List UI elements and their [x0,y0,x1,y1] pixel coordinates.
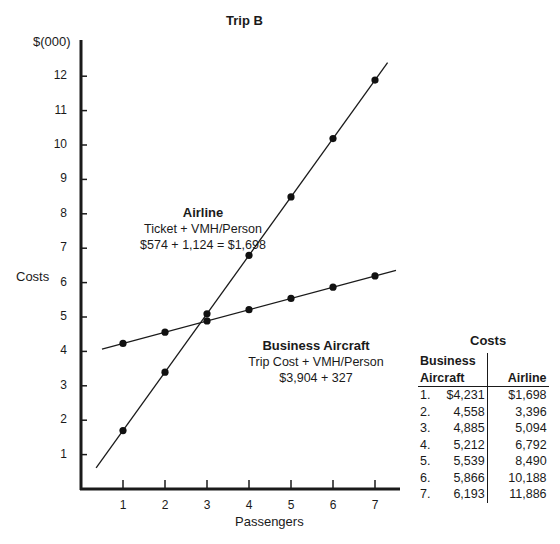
y-tick-label: 1 [43,447,67,461]
row-number: 3. [418,420,432,437]
table-row: 1.$4,231$1,698 [418,387,549,404]
x-tick-label: 1 [113,498,133,512]
axes [80,40,400,490]
row-number: 4. [418,437,432,454]
y-tick-label: 7 [43,240,67,254]
airline-cost: 6,792 [487,437,548,454]
business-cost: 5,539 [432,453,487,470]
y-tick-label: 5 [43,309,67,323]
business-cost: 4,885 [432,420,487,437]
airline-cost: 5,094 [487,420,548,437]
business-cost: 4,558 [432,404,487,421]
row-number: 5. [418,453,432,470]
chart-title: Trip B [226,13,263,28]
header-airline: Airline [487,370,548,387]
airline-point [329,135,336,142]
airline-cost: 11,886 [487,486,548,503]
table-row: 7.6,19311,886 [418,486,549,503]
business-cost: $4,231 [432,387,487,404]
y-tick-label: 4 [43,343,67,357]
business-cost: 6,193 [432,486,487,503]
table-row: 3.4,8855,094 [418,420,549,437]
y-tick-label: 12 [43,68,67,82]
business-cost: 5,212 [432,437,487,454]
airline-annotation-values: $574 + 1,124 = $1,698 [140,238,266,252]
y-tick-label: 2 [43,412,67,426]
y-tick-label: 6 [43,275,67,289]
row-number: 7. [418,486,432,503]
business-aircraft-point [329,284,336,291]
series-lines [96,63,396,468]
row-number: 2. [418,404,432,421]
airline-point [161,369,168,376]
table-row: 4.5,2126,792 [418,437,549,454]
header-business-line2: Aircraft [418,370,487,387]
business-aircraft-point [371,272,378,279]
business-aircraft-point [161,329,168,336]
x-tick-label: 3 [197,498,217,512]
airline-point [119,427,126,434]
x-tick-label: 7 [365,498,385,512]
airline-point [287,193,294,200]
header-business-line1: Business [418,353,487,370]
y-tick-label: 9 [43,171,67,185]
airline-point [371,77,378,84]
business-aircraft-point [119,340,126,347]
airline-annotation-formula: Ticket + VMH/Person [144,222,262,236]
x-tick-label: 6 [323,498,343,512]
header-spacer [487,353,548,370]
table-row: 5.5,5398,490 [418,453,549,470]
airline-line [96,63,387,468]
business-aircraft-point [287,295,294,302]
airline-cost: 8,490 [487,453,548,470]
y-tick-label: 11 [43,103,67,117]
airline-annotation: Airline Ticket + VMH/Person $574 + 1,124… [123,205,283,253]
y-tick-label: 8 [43,206,67,220]
costs-table-body: 1.$4,231$1,6982.4,5583,3963.4,8855,0944.… [418,387,549,503]
airline-point [203,310,210,317]
x-tick-label: 5 [281,498,301,512]
table-row: 6.5,86610,188 [418,470,549,487]
row-number: 6. [418,470,432,487]
y-tick-label: 3 [43,378,67,392]
business-annotation-values: $3,904 + 327 [279,371,352,385]
airline-cost: 3,396 [487,404,548,421]
airline-annotation-title: Airline [183,205,223,220]
x-tick-label: 2 [155,498,175,512]
x-axis-label: Passengers [235,514,304,529]
y-tick-label: 10 [43,137,67,151]
airline-cost: $1,698 [487,387,548,404]
business-aircraft-annotation: Business Aircraft Trip Cost + VMH/Person… [236,338,396,386]
row-number: 1. [418,387,432,404]
x-tick-label: 4 [239,498,259,512]
business-aircraft-point [245,306,252,313]
airline-cost: 10,188 [487,470,548,487]
business-aircraft-point [203,317,210,324]
y-unit-label: $(000) [33,34,71,49]
business-annotation-title: Business Aircraft [262,338,369,353]
costs-table: Business Aircraft Airline 1.$4,231$1,698… [418,353,549,503]
table-row: 2.4,5583,396 [418,404,549,421]
business-annotation-formula: Trip Cost + VMH/Person [248,355,383,369]
costs-table-title: Costs [470,333,506,348]
business-cost: 5,866 [432,470,487,487]
